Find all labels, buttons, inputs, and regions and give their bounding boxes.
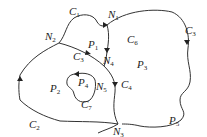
arrow-icon: [85, 50, 91, 55]
curve-c7-label: C7: [81, 98, 92, 112]
node-n1-label: N1: [107, 8, 119, 22]
curve-c1-label: C1: [69, 5, 80, 19]
arrow-icon: [184, 40, 190, 45]
region-p4-label: P4: [77, 76, 89, 90]
arrow-icon: [104, 48, 110, 53]
region-p5-label: P5: [168, 114, 180, 128]
region-p3-label: P3: [136, 58, 148, 72]
node-n2-label: N2: [44, 30, 56, 44]
curve-labels: C1 C2 C3 C4 C3 C6 C7: [29, 5, 196, 132]
region-p2-label: P2: [49, 82, 61, 96]
arrow-icon: [17, 76, 23, 81]
curve-c1: [59, 15, 107, 43]
diagram-canvas: N1 N2 N3 N4 N5 C1 C2 C3 C4 C3 C6 C7 P1 P…: [0, 0, 207, 137]
curve-c3-right-label: C3: [185, 24, 196, 38]
arrow-icon: [112, 82, 118, 87]
curve-c3-outer: [107, 10, 190, 127]
curve-c4: [104, 66, 118, 124]
node-n3-label: N3: [112, 125, 124, 137]
curve-c4-label: C4: [121, 78, 132, 92]
curve-c2-label: C2: [29, 118, 40, 132]
curve-c6-label: C6: [127, 33, 138, 47]
region-p1-label: P1: [87, 38, 99, 52]
curve-c3-label: C3: [73, 50, 84, 64]
node-n5-label: N5: [95, 80, 107, 94]
node-n4-label: N4: [102, 54, 114, 68]
planar-graph-diagram: N1 N2 N3 N4 N5 C1 C2 C3 C4 C3 C6 C7 P1 P…: [0, 0, 207, 137]
node-labels: N1 N2 N3 N4 N5: [44, 8, 124, 137]
